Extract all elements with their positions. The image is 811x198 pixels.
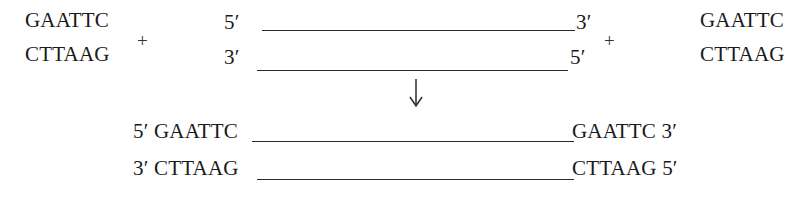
duplex-top-left-end-label: 5′ (224, 12, 240, 33)
plus-sign-right: + (604, 31, 615, 50)
restriction-site-ligation-figure: GAATTC CTTAAG + 5′ 3′ 3′ 5′ + GAATTC CTT… (0, 0, 811, 198)
product-top-strand-right-label: GAATTC 3′ (572, 121, 677, 142)
duplex-bottom-right-end-label: 5′ (570, 47, 586, 68)
duplex-top-strand-line (262, 30, 575, 31)
duplex-bottom-strand-line (257, 70, 568, 71)
product-bottom-strand-right-label: CTTAAG 5′ (572, 158, 678, 179)
right-fragment-bottom-sequence: CTTAAG (700, 44, 785, 65)
downward-arrow-icon (405, 79, 427, 109)
left-fragment-top-sequence: GAATTC (25, 10, 109, 31)
product-bottom-strand-left-label: 3′ CTTAAG (133, 158, 239, 179)
product-top-strand-line (252, 141, 574, 142)
plus-sign-left: + (137, 31, 148, 50)
duplex-bottom-left-end-label: 3′ (224, 47, 240, 68)
left-fragment-bottom-sequence: CTTAAG (25, 44, 110, 65)
product-top-strand-left-label: 5′ GAATTC (133, 121, 238, 142)
product-bottom-strand-line (257, 179, 574, 180)
duplex-top-right-end-label: 3′ (576, 12, 592, 33)
right-fragment-top-sequence: GAATTC (700, 10, 784, 31)
